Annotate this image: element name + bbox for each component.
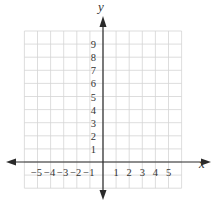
y-tick-label: 4: [91, 105, 97, 116]
y-tick-label: 5: [91, 92, 96, 103]
y-axis-up-arrow-icon: [100, 16, 107, 27]
x-tick-label: −1: [83, 167, 94, 178]
y-tick-label: 8: [91, 52, 96, 63]
x-tick-label: 4: [153, 167, 159, 178]
coordinate-plane: −5−4−3−2−112345 123456789 x y: [0, 0, 219, 203]
y-tick-label: 3: [91, 118, 96, 129]
x-axis-left-arrow-icon: [6, 159, 16, 166]
x-tick-label: −2: [70, 167, 81, 178]
x-tick-label: −3: [57, 167, 68, 178]
x-tick-label: 1: [113, 167, 118, 178]
y-axis-label: y: [96, 0, 104, 14]
x-axis-label: x: [198, 156, 205, 171]
y-tick-label: 7: [91, 65, 96, 76]
y-tick-labels: 123456789: [91, 39, 97, 155]
x-tick-label: 5: [166, 167, 171, 178]
x-tick-label: −5: [31, 167, 42, 178]
y-tick-label: 1: [91, 144, 96, 155]
y-tick-label: 6: [91, 78, 96, 89]
x-tick-label: 3: [140, 167, 145, 178]
x-tick-label: 2: [127, 167, 132, 178]
y-axis-down-arrow-icon: [100, 190, 107, 200]
y-tick-label: 9: [91, 39, 96, 50]
y-tick-label: 2: [91, 131, 96, 142]
x-tick-labels: −5−4−3−2−112345: [31, 167, 171, 178]
x-tick-label: −4: [44, 167, 56, 178]
